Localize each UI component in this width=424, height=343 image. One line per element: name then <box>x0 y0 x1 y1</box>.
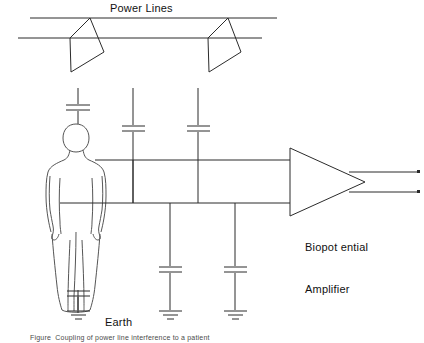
lamp-right-shade <box>208 18 241 72</box>
body-leg-inner-right <box>82 240 84 311</box>
capacitor-mid-right <box>187 88 210 203</box>
body-head <box>63 124 89 152</box>
amplifier-label-line2: Amplifier <box>305 282 368 296</box>
body-leg-right-outer <box>90 234 100 310</box>
earth-label: Earth <box>105 316 132 328</box>
body-arm-inner-right <box>91 178 93 234</box>
human-body-outline <box>46 124 106 312</box>
figure-canvas: Power Lines Earth Biopot ential Amplifie… <box>0 0 424 343</box>
body-leg-inner-left <box>68 240 70 311</box>
lamp-fixture-right <box>208 18 241 72</box>
capacitor-head <box>66 88 90 124</box>
ground-lead-right <box>224 311 247 319</box>
body-arm-inner-left <box>59 178 61 234</box>
body-earth-branch <box>67 290 90 313</box>
lamp-left-shade <box>70 18 104 72</box>
lead-right-earth-branch <box>224 203 247 310</box>
power-lines-label: Power Lines <box>110 2 173 14</box>
lead-left-earth-branch <box>159 203 182 310</box>
body-leg-gap-center <box>74 232 76 311</box>
figure-caption: Figure Coupling of power line interferen… <box>30 334 210 341</box>
amplifier-output-lower-terminal <box>417 190 420 193</box>
amplifier-label-line1: Biopot ential <box>305 240 368 254</box>
amplifier-label: Biopot ential Amplifier <box>305 212 368 324</box>
biopotential-amplifier <box>290 148 365 216</box>
ground-lead-left <box>159 311 182 319</box>
amplifier-triangle <box>290 148 365 216</box>
amplifier-output-upper-terminal <box>417 170 420 173</box>
lamp-fixture-left <box>70 18 104 72</box>
body-leg-left-outer <box>52 234 62 310</box>
